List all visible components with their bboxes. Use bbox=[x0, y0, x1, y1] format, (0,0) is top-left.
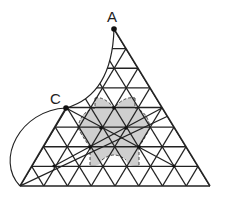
point-a-label: A bbox=[107, 8, 117, 25]
geometry-diagram: A C bbox=[0, 0, 225, 207]
point-c-label: C bbox=[50, 90, 61, 107]
point-c-dot bbox=[63, 105, 69, 111]
point-a-dot bbox=[111, 26, 117, 32]
